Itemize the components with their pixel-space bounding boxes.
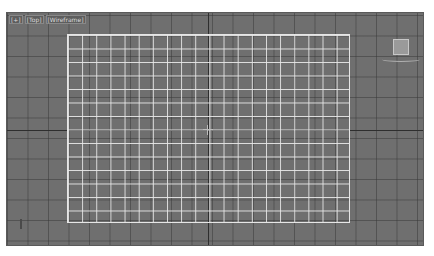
- viewport-label-menu: [+] [Top] [Wireframe]: [9, 15, 86, 24]
- viewport-general-menu[interactable]: [+]: [9, 15, 23, 24]
- viewcube-compass-icon[interactable]: [382, 57, 420, 62]
- pivot-icon: [203, 125, 213, 135]
- axis-tripod-icon: [20, 219, 22, 229]
- viewport-shading-menu[interactable]: [Wireframe]: [46, 15, 86, 24]
- viewport-point-of-view-menu[interactable]: [Top]: [25, 15, 44, 24]
- viewcube-icon[interactable]: [393, 39, 409, 55]
- viewport-top[interactable]: [+] [Top] [Wireframe]: [6, 12, 424, 246]
